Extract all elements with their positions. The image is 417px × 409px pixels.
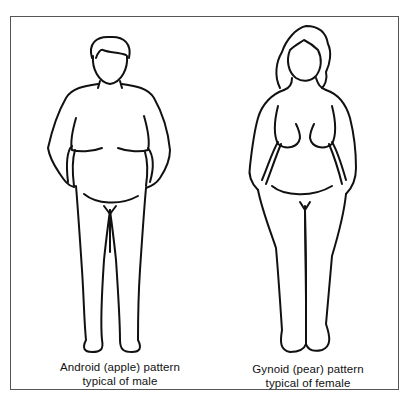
- caption-male-line2: typical of male: [40, 374, 200, 388]
- figure-drawings: [0, 0, 417, 409]
- caption-male: Android (apple) pattern typical of male: [40, 360, 200, 388]
- caption-female-line2: typical of female: [228, 376, 388, 390]
- female-body-outline-icon: [249, 26, 356, 352]
- caption-male-line1: Android (apple) pattern: [40, 360, 200, 374]
- male-body-outline-icon: [48, 37, 170, 352]
- caption-female-line1: Gynoid (pear) pattern: [228, 362, 388, 376]
- caption-female: Gynoid (pear) pattern typical of female: [228, 362, 388, 390]
